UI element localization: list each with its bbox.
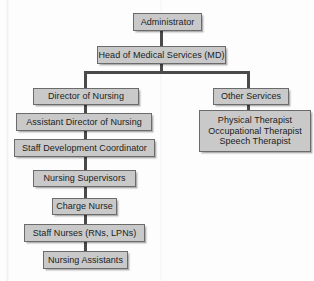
node-therapists-line-speech: Speech Therapist (219, 136, 290, 147)
node-other-services-label: Other Services (221, 91, 281, 102)
node-administrator-label: Administrator (141, 17, 195, 28)
org-chart: Administrator Head of Medical Services (… (0, 0, 314, 281)
node-administrator[interactable]: Administrator (133, 13, 202, 31)
node-nursing-assistants[interactable]: Nursing Assistants (43, 251, 128, 269)
node-assistant-director-of-nursing-label: Assistant Director of Nursing (26, 117, 142, 128)
node-staff-nurses[interactable]: Staff Nurses (RNs, LPNs) (24, 224, 145, 242)
node-staff-development-coordinator[interactable]: Staff Development Coordinator (14, 139, 155, 157)
node-nursing-assistants-label: Nursing Assistants (48, 255, 123, 266)
node-director-of-nursing[interactable]: Director of Nursing (33, 88, 139, 105)
node-charge-nurse-label: Charge Nurse (56, 201, 113, 212)
node-nursing-supervisors-label: Nursing Supervisors (44, 173, 126, 184)
node-charge-nurse[interactable]: Charge Nurse (52, 198, 117, 215)
node-director-of-nursing-label: Director of Nursing (48, 91, 124, 102)
connector-branch-bus (84, 71, 250, 74)
node-head-of-medical-services-label: Head of Medical Services (MD) (99, 50, 225, 61)
node-therapists-line-physical: Physical Therapist (218, 115, 292, 126)
node-head-of-medical-services[interactable]: Head of Medical Services (MD) (97, 46, 226, 64)
connector-bus-to-other-services (247, 71, 250, 89)
node-nursing-supervisors[interactable]: Nursing Supervisors (33, 170, 136, 187)
connector-staff-development-to-supervisors (84, 156, 87, 171)
node-other-services[interactable]: Other Services (213, 88, 289, 105)
node-staff-development-coordinator-label: Staff Development Coordinator (22, 143, 147, 154)
scan-artifact (6, 0, 9, 281)
node-therapists-line-occupational: Occupational Therapist (208, 126, 302, 137)
connector-bus-to-director-nursing (84, 71, 87, 89)
node-therapists[interactable]: Physical Therapist Occupational Therapis… (199, 110, 311, 152)
node-assistant-director-of-nursing[interactable]: Assistant Director of Nursing (16, 113, 152, 131)
node-staff-nurses-label: Staff Nurses (RNs, LPNs) (33, 228, 137, 239)
